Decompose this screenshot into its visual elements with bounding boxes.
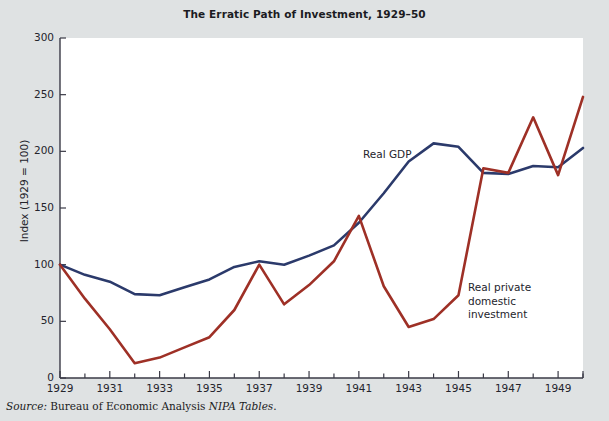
- x-tick-label: 1935: [186, 382, 232, 394]
- chart-figure: The Erratic Path of Investment, 1929–50 …: [0, 0, 609, 421]
- series-label-real-private-domestic-investment: Real private domestic investment: [468, 281, 531, 322]
- x-tick-label: 1947: [485, 382, 531, 394]
- source-text: Bureau of Economic Analysis: [50, 400, 205, 412]
- source-suffix: .: [273, 400, 276, 412]
- y-axis-label: Index (1929 = 100): [18, 121, 30, 261]
- x-tick-label: 1945: [435, 382, 481, 394]
- series-label-real-gdp: Real GDP: [363, 148, 412, 162]
- y-tick-label: 50: [14, 314, 54, 326]
- source-prefix: Source:: [6, 400, 47, 412]
- series-paths: [60, 97, 583, 363]
- tick-marks: [60, 38, 583, 378]
- x-tick-label: 1937: [236, 382, 282, 394]
- x-tick-label: 1943: [386, 382, 432, 394]
- series-line-1: [60, 97, 583, 363]
- x-tick-label: 1931: [87, 382, 133, 394]
- x-tick-label: 1933: [137, 382, 183, 394]
- source-italic-tail: NIPA Tables: [209, 400, 274, 412]
- axis-lines: [60, 38, 583, 378]
- y-tick-label: 300: [14, 31, 54, 43]
- x-tick-label: 1939: [286, 382, 332, 394]
- chart-canvas: [0, 0, 609, 421]
- y-tick-label: 250: [14, 88, 54, 100]
- x-tick-label: 1941: [336, 382, 382, 394]
- x-tick-label: 1949: [535, 382, 581, 394]
- x-tick-label: 1929: [37, 382, 83, 394]
- source-note: Source: Bureau of Economic Analysis NIPA…: [6, 400, 277, 412]
